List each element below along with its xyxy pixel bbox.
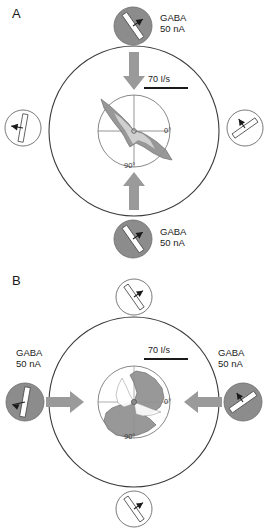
panel-b-origin-marker bbox=[131, 399, 136, 404]
gaba-dose: 50 nA bbox=[218, 358, 244, 369]
panel-a-arrow-top-down bbox=[123, 52, 145, 90]
panel-b: B bbox=[0, 265, 271, 531]
gaba-name: GABA bbox=[160, 226, 186, 237]
bar-stimulus-icon-gaba-top bbox=[114, 7, 152, 45]
bar-stimulus-icon-bottom bbox=[116, 491, 152, 527]
panel-b-stage: GABA 50 nA GABA 50 nA 70 I/s 0° 90° bbox=[0, 265, 271, 531]
panel-b-scalebar-label: 70 I/s bbox=[148, 345, 170, 355]
panel-b-gaba-right-label: GABA 50 nA bbox=[218, 347, 244, 369]
panel-b-axis-label-ninety: 90° bbox=[124, 432, 135, 441]
panel-a-axis-label-ninety: 90° bbox=[124, 161, 135, 170]
panel-a-scalebar-label: 70 I/s bbox=[148, 74, 170, 84]
bar-stimulus-icon-top bbox=[116, 279, 152, 315]
panel-b-gaba-left-label: GABA 50 nA bbox=[16, 347, 42, 369]
panel-a-axis-label-zero: 0° bbox=[164, 126, 171, 135]
gaba-name: GABA bbox=[16, 347, 42, 358]
panel-a-figure bbox=[0, 0, 271, 265]
panel-a-gaba-bottom-label: GABA 50 nA bbox=[160, 226, 186, 248]
bar-stimulus-icon-left bbox=[5, 110, 41, 146]
gaba-dose: 50 nA bbox=[160, 237, 186, 248]
panel-a-arrow-bottom-up bbox=[123, 172, 145, 210]
panel-a-gaba-top-label: GABA 50 nA bbox=[160, 12, 186, 34]
gaba-name: GABA bbox=[160, 12, 186, 23]
panel-b-axis-label-zero: 0° bbox=[164, 397, 171, 406]
gaba-name: GABA bbox=[218, 347, 244, 358]
panel-b-figure bbox=[0, 265, 271, 531]
gaba-dose: 50 nA bbox=[160, 23, 186, 34]
bar-stimulus-icon-gaba-bottom bbox=[114, 220, 152, 258]
panel-b-arrow-right-left bbox=[184, 391, 222, 413]
bar-stimulus-icon-right bbox=[227, 110, 263, 146]
bar-stimulus-icon-gaba-left bbox=[6, 383, 44, 421]
panel-a: A bbox=[0, 0, 271, 265]
panel-a-stage: GABA 50 nA GABA 50 nA 70 I/s 0° 90° bbox=[0, 0, 271, 266]
bar-stimulus-icon-gaba-right bbox=[224, 383, 262, 421]
panel-b-arrow-left-right bbox=[46, 391, 84, 413]
gaba-dose: 50 nA bbox=[16, 358, 42, 369]
